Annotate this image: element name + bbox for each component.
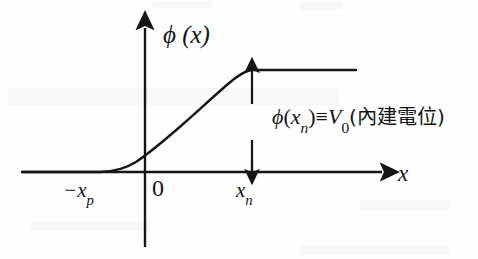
y-axis-label: ϕ (x) <box>163 22 210 47</box>
figure-canvas: ϕ (x) x −xp 0 xn ϕ(xn)≡V0(內建電位) <box>0 0 478 259</box>
annotation-v-symbol: V <box>328 104 341 129</box>
tick-label-xn-base: x <box>236 178 245 202</box>
y-axis-label-text: ϕ (x) <box>163 21 210 48</box>
origin-label: 0 <box>152 176 164 200</box>
annotation-open-paren: ( <box>283 104 290 129</box>
x-axis-label: x <box>398 162 408 185</box>
annotation-v-subscript: 0 <box>341 119 349 136</box>
annotation-arg-subscript: n <box>300 119 308 136</box>
annotation-cjk-note: (內建電位) <box>349 105 445 129</box>
x-axis-label-text: x <box>398 161 408 186</box>
built-in-potential-annotation: ϕ(xn)≡V0(內建電位) <box>272 106 445 132</box>
tick-label-minus-xp: −xp <box>63 180 94 205</box>
annotation-phi-symbol: ϕ <box>272 104 283 129</box>
tick-label-minus-xp-subscript: p <box>87 192 94 208</box>
tick-label-xn: xn <box>236 180 253 205</box>
origin-label-text: 0 <box>152 175 164 201</box>
annotation-identity-sign: ≡ <box>316 104 328 129</box>
tick-label-xn-subscript: n <box>245 192 252 208</box>
annotation-close-paren: ) <box>308 104 315 129</box>
tick-label-minus-xp-base: −x <box>63 178 87 202</box>
